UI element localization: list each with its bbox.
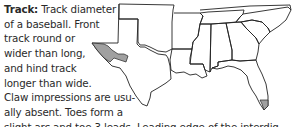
state-south-carolina (241, 20, 270, 44)
state-florida (212, 60, 268, 110)
state-alabama (210, 23, 232, 72)
track-label: Track: (4, 3, 38, 15)
range-area-west-texas (92, 43, 128, 62)
range-map (87, 0, 293, 112)
northern-boundary (200, 5, 291, 10)
state-arkansas (172, 13, 203, 49)
state-mississippi (190, 24, 211, 72)
state-georgia (226, 22, 259, 61)
state-oklahoma (119, 4, 174, 52)
state-louisiana (170, 49, 207, 78)
text-line-9: slight arc and toe 3 leads. Leading edge… (4, 120, 293, 127)
field-guide-page: Track: Track diameter of a baseball. Fro… (0, 0, 293, 127)
